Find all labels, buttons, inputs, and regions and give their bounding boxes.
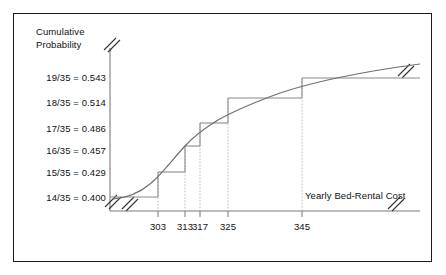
y-axis-title-line2: Probability <box>36 39 85 52</box>
y-axis-title: Cumulative Probability <box>36 26 85 51</box>
y-tick-label-0457: 16/35 = 0.457 <box>46 145 106 156</box>
x-tick-label-325: 325 <box>209 221 247 232</box>
x-tick-marks <box>158 211 302 217</box>
y-tick-label-0486: 17/35 = 0.486 <box>46 123 106 134</box>
y-axis-title-line1: Cumulative <box>36 26 85 39</box>
step-function-series <box>110 78 420 197</box>
y-tick-label-0543: 19/35 = 0.543 <box>46 72 106 83</box>
ogive-curve-series <box>113 64 420 199</box>
figure-container: Cumulative Probability Yearly Bed-Rental… <box>0 0 446 275</box>
y-tick-label-0429: 15/35 = 0.429 <box>46 167 106 178</box>
x-tick-label-345: 345 <box>283 221 321 232</box>
y-tick-label-0400: 14/35 = 0.400 <box>46 192 106 203</box>
x-axis-left-break-icon <box>122 197 138 211</box>
y-tick-label-0514: 18/35 = 0.514 <box>46 97 106 108</box>
y-axis-top-break-icon <box>104 38 120 52</box>
x-axis-title: Yearly Bed-Rental Cost <box>305 190 406 203</box>
